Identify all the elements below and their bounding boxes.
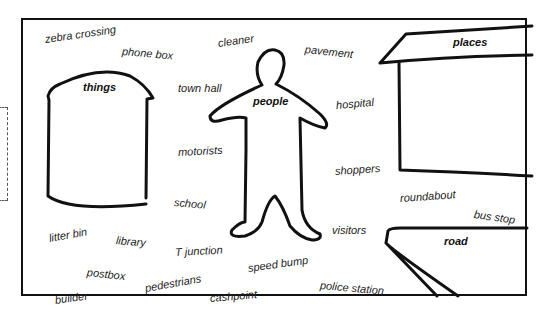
word-town-hall: town hall (178, 82, 221, 94)
category-label-road: road (444, 235, 468, 247)
category-label-things: things (83, 81, 116, 93)
category-label-places: places (453, 36, 487, 48)
word-visitors: visitors (332, 224, 366, 236)
word-t-junction: T junction (175, 244, 223, 258)
word-motorists: motorists (178, 144, 223, 158)
places-building-outline (380, 26, 532, 176)
sketch-drawings (0, 0, 545, 329)
people-figure-outline (210, 50, 327, 240)
word-library: library (115, 234, 146, 249)
category-label-people: people (253, 95, 288, 107)
